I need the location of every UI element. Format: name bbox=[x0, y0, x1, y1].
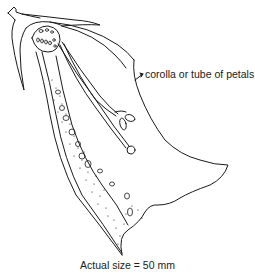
anther-1 bbox=[124, 113, 136, 122]
stigma bbox=[127, 146, 135, 154]
ovules bbox=[37, 29, 57, 48]
sepal-inner-1 bbox=[50, 22, 134, 60]
stamen-1 bbox=[62, 42, 118, 114]
sepal-left bbox=[12, 20, 26, 90]
stamen-2 bbox=[115, 111, 126, 112]
ovule-cells bbox=[56, 90, 133, 216]
stem-tip bbox=[8, 7, 40, 18]
stipple bbox=[51, 79, 142, 244]
corolla-label: corolla or tube of petals bbox=[145, 68, 254, 80]
scale-caption: Actual size = 50 mm bbox=[0, 259, 255, 271]
sepal-top-right bbox=[22, 14, 100, 26]
corolla-right-edge bbox=[121, 60, 228, 255]
ovary bbox=[32, 26, 60, 52]
flower-illustration bbox=[0, 0, 255, 273]
